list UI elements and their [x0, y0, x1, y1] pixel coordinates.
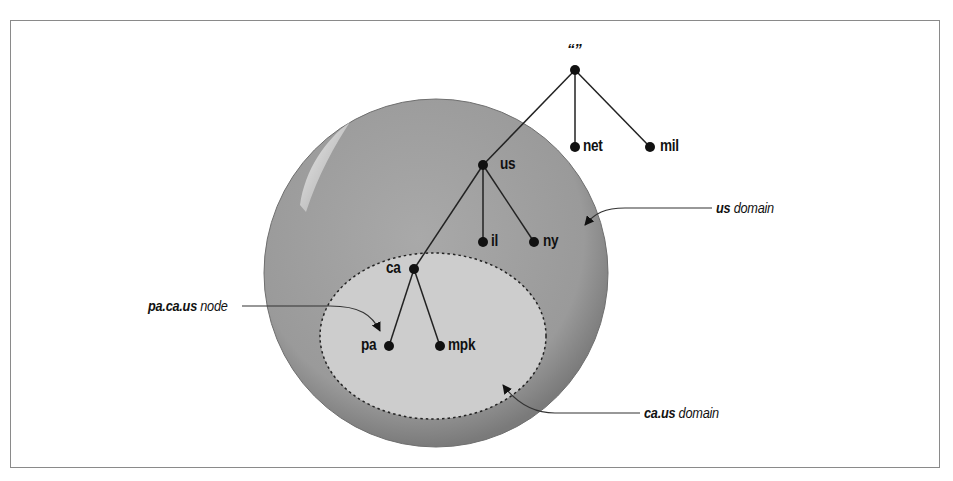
- mil-label: mil: [660, 137, 679, 155]
- ny-node: [529, 237, 539, 247]
- ca-us-domain-region: [320, 253, 546, 419]
- us-domain-callout-rest: domain: [730, 199, 774, 216]
- us-domain-callout: us domain: [716, 199, 774, 216]
- pa-node: [384, 341, 394, 351]
- root-label: “”: [567, 40, 581, 57]
- ca-node: [409, 264, 419, 274]
- il-node: [478, 237, 488, 247]
- root-node: [570, 65, 580, 75]
- net-label: net: [583, 137, 603, 155]
- ca-us-domain-callout-bold: ca.us: [644, 404, 675, 421]
- us-node: [478, 160, 488, 170]
- pa-ca-us-node-callout: pa.ca.us node: [148, 297, 228, 314]
- il-label: il: [491, 232, 498, 250]
- dns-tree-diagram: [0, 0, 953, 481]
- ca-us-domain-callout: ca.us domain: [644, 404, 719, 421]
- us-domain-arrow: [585, 208, 712, 225]
- mpk-label: mpk: [448, 336, 475, 354]
- pa-ca-us-node-callout-rest: node: [197, 297, 228, 314]
- net-node: [570, 142, 580, 152]
- ca-us-domain-callout-rest: domain: [675, 404, 719, 421]
- pa-label: pa: [361, 336, 376, 354]
- ny-label: ny: [543, 232, 558, 250]
- us-domain-callout-bold: us: [716, 199, 730, 216]
- us-label: us: [500, 155, 515, 173]
- mpk-node: [435, 341, 445, 351]
- pa-ca-us-node-callout-bold: pa.ca.us: [148, 297, 197, 314]
- ca-label: ca: [386, 259, 401, 277]
- mil-node: [645, 142, 655, 152]
